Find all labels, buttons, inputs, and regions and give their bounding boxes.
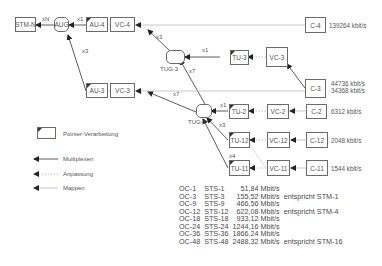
- mult-au3-aug: x3: [82, 48, 88, 54]
- tu12-box: TU-12: [229, 132, 250, 148]
- rate-c3-b: 34368 kbit/s: [331, 87, 365, 94]
- vc11-box: VC-11: [267, 160, 290, 176]
- vc4-box: VC-4: [110, 17, 135, 32]
- au3-box: AU-3: [86, 83, 108, 98]
- tug2-node: [196, 104, 212, 118]
- vc3-right-box: VC-3: [266, 47, 288, 67]
- mult-tu2-tug2: x1: [220, 102, 226, 108]
- note-cell: [284, 215, 347, 223]
- sts-cell: STS-48: [204, 238, 232, 246]
- table-row: OC-48STS-482488,32 Mbit/sentspricht STM-…: [179, 238, 346, 246]
- legend-pointer-label: Pointer-Verarbeitung: [63, 131, 118, 137]
- rate-c2: 6312 kbit/s: [331, 108, 361, 115]
- legend-adapt-label: Anpassung: [63, 171, 93, 177]
- rate-c12: 2048 kbit/s: [331, 137, 361, 144]
- mult-aug-stm: xN: [42, 16, 49, 22]
- note-cell: entspricht STM-4: [284, 208, 347, 216]
- c2-box: C-2: [306, 104, 327, 119]
- mult-au4-aug: x1: [77, 16, 83, 22]
- oc-cell: OC-48: [179, 238, 204, 246]
- stm-n-box: STM-N: [15, 17, 36, 32]
- tug3-node: [166, 50, 185, 64]
- mult-tu3-tug3: x1: [202, 47, 208, 53]
- mult-tu11-tug2: x4: [229, 153, 235, 159]
- c3-box: C-3: [305, 79, 326, 98]
- rate-c3-a: 44736 kbit/s: [331, 80, 365, 87]
- tu3-box: TU-3: [230, 50, 249, 65]
- rate-c4: 139264 kbit/s: [329, 22, 366, 29]
- aug-node: AUG: [54, 17, 69, 32]
- legend-map-label: Mappen: [63, 185, 85, 191]
- vc12-box: VC-12: [267, 132, 290, 148]
- vc2-box: VC-2: [267, 104, 289, 119]
- note-cell: [284, 223, 347, 231]
- tug3-label: TUG-3: [160, 66, 178, 72]
- oc-rate-table: OC-1STS-151,84 Mbit/s OC-3STS-3155,52 Mb…: [179, 185, 346, 245]
- vc3-left-box: VC-3: [110, 83, 135, 98]
- legend-pointer-box: [37, 127, 56, 139]
- legend-multiplex-label: Multiplexen: [63, 156, 93, 162]
- rate-cell: 2488,32 Mbit/s: [233, 238, 284, 246]
- note-cell: entspricht STM-16: [284, 238, 347, 246]
- au4-box: AU-4: [86, 17, 108, 32]
- mult-tug2-vc3: x7: [173, 91, 179, 97]
- rate-c11: 1544 kbit/s: [331, 165, 361, 172]
- tu2-box: TU-2: [229, 104, 249, 119]
- c11-box: C-11: [306, 160, 328, 176]
- tu11-box: TU-11: [229, 160, 250, 176]
- mult-tu12-tug2: x3: [219, 122, 225, 128]
- tug2-label: TUG-2: [188, 119, 206, 125]
- c12-box: C-12: [306, 132, 328, 148]
- c4-box: C-4: [305, 17, 326, 33]
- mult-tug2-tug3: x7: [189, 68, 195, 74]
- mult-tug3-vc4: x3: [156, 34, 162, 40]
- note-cell: entspricht STM-1: [284, 193, 347, 201]
